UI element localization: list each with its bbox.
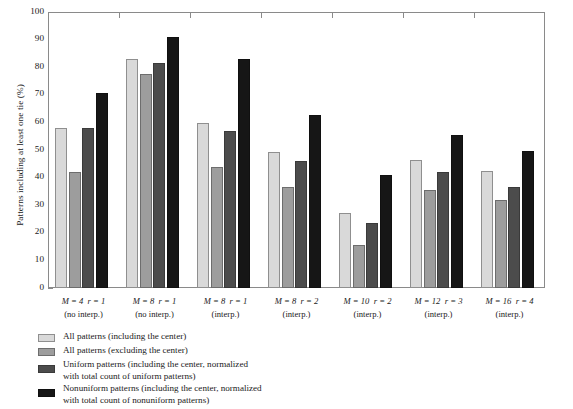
bar <box>424 190 436 288</box>
legend-swatch <box>38 365 55 373</box>
x-label-line1: M = 16 r = 4 <box>465 295 555 308</box>
bar <box>126 59 138 288</box>
y-tick-mark <box>48 288 53 289</box>
legend-label: All patterns (excluding the center) <box>63 345 538 357</box>
legend-item: Uniform patterns (including the center, … <box>38 359 538 382</box>
y-tick-label: 90 <box>4 33 44 43</box>
legend-label-continued: with total count of nonuniform patterns) <box>63 395 538 407</box>
bar <box>268 152 280 288</box>
y-tick-label: 70 <box>4 88 44 98</box>
y-tick-label: 30 <box>4 199 44 209</box>
bar-group <box>119 12 190 288</box>
bar <box>508 187 520 288</box>
bar <box>309 115 321 288</box>
legend-swatch <box>38 334 55 342</box>
bar <box>211 167 223 288</box>
bar <box>96 93 108 288</box>
bar-group <box>261 12 332 288</box>
x-label-line2: (interp.) <box>465 308 555 321</box>
y-axis-title: Patterns including at least one tie (%) <box>15 55 25 255</box>
bar <box>82 128 94 288</box>
bar <box>167 37 179 288</box>
y-tick-label: 10 <box>4 254 44 264</box>
legend-label: Nonuniform patterns (including the cente… <box>63 383 538 395</box>
legend-item: All patterns (including the center) <box>38 331 538 344</box>
bar-group <box>48 12 119 288</box>
legend-swatch <box>38 389 55 397</box>
bar <box>410 160 422 288</box>
legend-label: Uniform patterns (including the center, … <box>63 359 538 371</box>
bars-layer <box>48 12 545 288</box>
bar-group <box>190 12 261 288</box>
bar <box>197 123 209 288</box>
y-tick-label: 50 <box>4 144 44 154</box>
bar <box>366 223 378 288</box>
legend-label: All patterns (including the center) <box>63 331 538 343</box>
legend: All patterns (including the center)All p… <box>38 331 538 407</box>
bar-chart-figure: Patterns including at least one tie (%) … <box>0 0 573 409</box>
bar <box>437 172 449 288</box>
bar <box>224 131 236 288</box>
bar <box>353 245 365 288</box>
bar <box>153 63 165 288</box>
y-tick-label: 40 <box>4 171 44 181</box>
bar-group <box>474 12 545 288</box>
y-tick-label: 100 <box>4 6 44 16</box>
y-tick-label: 60 <box>4 116 44 126</box>
legend-swatch <box>38 348 55 356</box>
bar <box>495 200 507 288</box>
legend-label-continued: with total count of uniform patterns) <box>63 371 538 383</box>
bar <box>481 171 493 288</box>
bar <box>380 175 392 288</box>
bar <box>69 172 81 288</box>
bar <box>238 59 250 288</box>
bar-group <box>403 12 474 288</box>
bar <box>339 213 351 288</box>
y-tick-label: 20 <box>4 226 44 236</box>
legend-item: All patterns (excluding the center) <box>38 345 538 358</box>
y-tick-label: 0 <box>4 282 44 292</box>
y-tick-label: 80 <box>4 61 44 71</box>
legend-item: Nonuniform patterns (including the cente… <box>38 383 538 406</box>
bar <box>55 128 67 288</box>
bar <box>282 187 294 288</box>
bar-group <box>332 12 403 288</box>
bar <box>451 135 463 288</box>
bar <box>522 151 534 288</box>
bar <box>140 74 152 288</box>
bar <box>295 161 307 288</box>
x-axis-group-label: M = 16 r = 4(interp.) <box>465 295 555 320</box>
